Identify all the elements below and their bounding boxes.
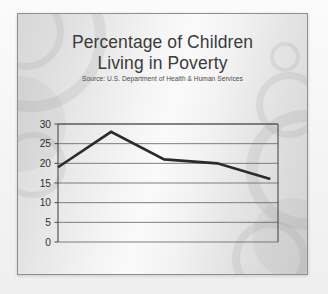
y-axis-tick-label: 20: [40, 158, 52, 169]
y-axis-tick-label: 0: [45, 237, 51, 248]
y-axis-tick-label: 25: [40, 138, 52, 149]
presentation-slide: Percentage of Children Living in Poverty…: [17, 13, 308, 275]
y-axis-tick-label: 5: [45, 217, 51, 228]
slide-title: Percentage of Children Living in Poverty: [18, 32, 307, 74]
y-axis-tick-label: 30: [40, 119, 52, 130]
y-axis-tick-label: 15: [40, 178, 52, 189]
data-series-line: [58, 132, 270, 179]
screenshot-canvas: Percentage of Children Living in Poverty…: [0, 0, 328, 294]
slide-source-note: Source: U.S. Department of Health & Huma…: [18, 75, 307, 82]
line-chart: 05101520253020102012201420162018: [18, 92, 308, 252]
y-axis-tick-label: 10: [40, 197, 52, 208]
chart-svg: 05101520253020102012201420162018: [18, 92, 308, 252]
